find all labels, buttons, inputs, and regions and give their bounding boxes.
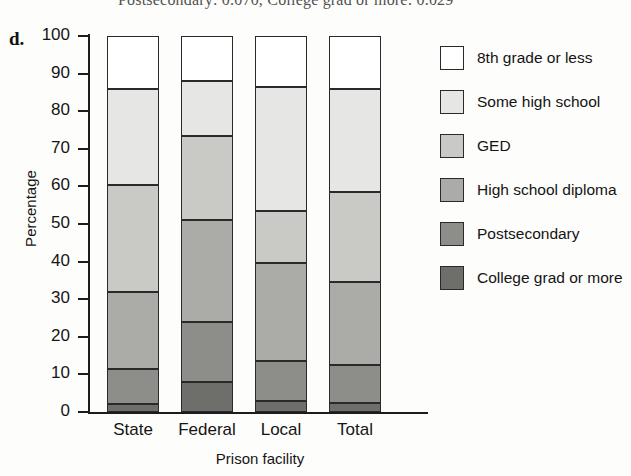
y-axis-label: Percentage: [22, 139, 39, 279]
bar-segment[interactable]: [107, 369, 159, 405]
legend-swatch-icon: [440, 266, 464, 290]
bar-segment[interactable]: [255, 401, 307, 412]
y-axis-tick: [78, 336, 89, 338]
bar-segment[interactable]: [255, 263, 307, 361]
chart-legend: 8th grade or lessSome high schoolGEDHigh…: [440, 36, 631, 300]
legend-swatch-icon: [440, 178, 464, 202]
y-axis-tick: [78, 373, 89, 375]
legend-label: 8th grade or less: [477, 49, 592, 67]
bar-segment[interactable]: [181, 136, 233, 221]
bar-segment[interactable]: [107, 404, 159, 412]
y-axis-tick-label: 0: [26, 401, 70, 421]
bar-local[interactable]: [255, 0, 307, 476]
legend-item[interactable]: High school diploma: [440, 168, 631, 212]
bar-total[interactable]: [329, 0, 381, 476]
legend-label: College grad or more: [477, 269, 623, 287]
y-axis-tick-label: 80: [26, 100, 70, 120]
bar-segment[interactable]: [255, 211, 307, 264]
y-axis-tick-label: 30: [26, 288, 70, 308]
bar-segment[interactable]: [329, 365, 381, 403]
bar-federal[interactable]: [181, 0, 233, 476]
bar-segment[interactable]: [107, 89, 159, 185]
bar-segment[interactable]: [181, 220, 233, 322]
legend-label: High school diploma: [477, 181, 617, 199]
figure-panel-d: Postsecondary: 0.070, College grad or mo…: [0, 0, 631, 476]
legend-swatch-icon: [440, 134, 464, 158]
bar-segment[interactable]: [107, 36, 159, 89]
legend-label: GED: [477, 137, 511, 155]
bar-segment[interactable]: [329, 192, 381, 282]
legend-label: Postsecondary: [477, 225, 580, 243]
y-axis-tick-label: 10: [26, 363, 70, 383]
y-axis-tick: [78, 73, 89, 75]
legend-item[interactable]: 8th grade or less: [440, 36, 631, 80]
legend-label: Some high school: [477, 93, 600, 111]
bar-segment[interactable]: [329, 282, 381, 365]
y-axis-tick: [78, 35, 89, 37]
y-axis-tick: [78, 185, 89, 187]
bar-segment[interactable]: [181, 81, 233, 136]
y-axis-tick: [78, 223, 89, 225]
bar-segment[interactable]: [255, 361, 307, 400]
bar-segment[interactable]: [255, 36, 307, 87]
x-axis-label: Prison facility: [160, 450, 360, 467]
bar-segment[interactable]: [181, 382, 233, 412]
y-axis-tick-label: 20: [26, 326, 70, 346]
bar-segment[interactable]: [255, 87, 307, 211]
legend-swatch-icon: [440, 46, 464, 70]
bar-segment[interactable]: [107, 292, 159, 369]
bar-state[interactable]: [107, 0, 159, 476]
bar-segment[interactable]: [329, 36, 381, 89]
bar-segment[interactable]: [329, 89, 381, 192]
y-axis-tick-label: 100: [26, 25, 70, 45]
legend-item[interactable]: Some high school: [440, 80, 631, 124]
legend-swatch-icon: [440, 222, 464, 246]
legend-item[interactable]: College grad or more: [440, 256, 631, 300]
y-axis-tick: [78, 148, 89, 150]
bar-segment[interactable]: [107, 185, 159, 292]
legend-item[interactable]: GED: [440, 124, 631, 168]
bar-segment[interactable]: [181, 322, 233, 382]
y-axis-tick: [78, 110, 89, 112]
y-axis-tick: [78, 261, 89, 263]
y-axis-tick: [78, 411, 89, 413]
bar-segment[interactable]: [181, 36, 233, 81]
bar-segment[interactable]: [329, 403, 381, 412]
x-tick-label-total: Total: [310, 420, 400, 440]
y-axis-tick-label: 90: [26, 63, 70, 83]
y-axis-tick: [78, 298, 89, 300]
legend-item[interactable]: Postsecondary: [440, 212, 631, 256]
legend-swatch-icon: [440, 90, 464, 114]
